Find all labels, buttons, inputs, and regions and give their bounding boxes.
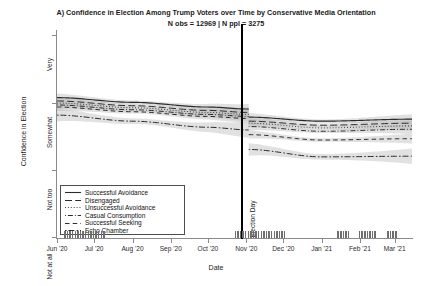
x-tick [246,239,247,243]
y-tick-somewhat [52,103,56,104]
rug-mark [64,231,66,238]
rug-mark [348,231,350,238]
rug-mark [340,231,342,238]
x-tick-label: Oct '20 [188,245,228,252]
legend-item-successful-seeking[interactable]: Successful Seeking [64,219,182,227]
rug-mark [95,231,97,238]
chart-title: A) Confidence in Election Among Trump Vo… [0,8,432,17]
rug-mark [98,231,100,238]
rug-mark [75,231,77,238]
rug-mark [69,231,71,238]
rug-mark [374,231,376,238]
rug-mark [372,231,374,238]
x-tick [208,239,209,243]
rug-mark [101,231,103,238]
rug-mark [359,231,361,238]
rug-mark [255,231,257,238]
rug-mark [103,231,105,238]
rug-mark [367,231,369,238]
rug-mark [395,231,397,238]
x-tick [133,239,134,243]
x-tick-label: Dec '20 [263,245,303,252]
rug-mark [253,231,255,238]
legend-label: Successful Seeking [82,219,142,227]
y-tick-label-somewhat: Somewhat [46,104,53,162]
rug-mark [343,231,345,238]
x-axis-title: Date [0,264,432,271]
y-tick-label-not-too: Not too [46,171,53,229]
rug-mark [390,231,392,238]
rug-mark [276,231,278,238]
rug-mark [387,231,389,238]
rug-mark [82,231,84,238]
rug-mark [261,231,263,238]
x-tick-label: Sep '20 [151,245,191,252]
rug-mark [281,231,283,238]
x-tick-label: Aug '20 [113,245,153,252]
rug-mark [67,231,69,238]
legend-line-swatch [64,220,82,227]
rug-mark [237,231,239,238]
legend-line-swatch [64,204,82,211]
x-tick-label: Mar '21 [375,245,415,252]
election-day-label: Election Day [249,186,256,238]
x-tick [360,239,361,243]
legend: Successful AvoidanceDisengagedUnsuccessf… [60,185,185,235]
rug-mark [364,231,366,238]
rug-mark [245,231,247,238]
rug-mark [240,231,242,238]
rug-mark [235,231,237,238]
x-tick-label: Jun '20 [37,245,77,252]
rug-mark [284,231,286,238]
election-day-line [241,24,243,239]
rug-mark [271,231,273,238]
rug-mark [93,231,95,238]
y-tick-not-too [52,170,56,171]
rug-mark [274,231,276,238]
rug-mark [72,231,74,238]
rug-mark [266,231,268,238]
rug-mark [248,231,250,238]
legend-line-swatch [64,197,82,204]
legend-label: Successful Avoidance [82,189,148,197]
rug-mark [361,231,363,238]
legend-item-disengaged[interactable]: Disengaged [64,197,182,205]
ci-ribbon [249,143,412,164]
rug-mark [345,231,347,238]
x-tick [395,239,396,243]
legend-label: Disengaged [82,197,120,205]
rug-mark [88,231,90,238]
x-tick-label: Jan '21 [302,245,342,252]
legend-item-successful-avoidance[interactable]: Successful Avoidance [64,189,182,197]
rug-mark [279,231,281,238]
rug-mark [80,231,82,238]
legend-label: Unsuccessful Avoidance [82,204,155,212]
rug-mark [258,231,260,238]
rug-mark [85,231,87,238]
legend-line-swatch [64,189,82,196]
legend-item-casual-consumption[interactable]: Casual Consumption [64,212,182,220]
rug-mark [250,231,252,238]
x-tick [171,239,172,243]
rug-mark [268,231,270,238]
y-tick-label-very: Very [46,36,53,94]
x-tick [57,239,58,243]
rug-mark [242,231,244,238]
rug-mark [337,231,339,238]
rug-mark [90,231,92,238]
y-axis-title: Confidence in Election [20,82,27,182]
x-tick-label: Jul '20 [74,245,114,252]
x-tick-label: Nov '20 [226,245,266,252]
legend-line-swatch [64,212,82,219]
chart-subtitle: N obs = 12969 | N ppl = 3275 [0,19,432,28]
legend-label: Casual Consumption [82,212,145,220]
y-tick-not-at-all [52,237,56,238]
legend-item-unsuccessful-avoidance[interactable]: Unsuccessful Avoidance [64,204,182,212]
rug-mark [369,231,371,238]
x-tick [322,239,323,243]
rug-mark [263,231,265,238]
x-tick [94,239,95,243]
rug-mark [392,231,394,238]
rug-mark [77,231,79,238]
y-tick-very [52,35,56,36]
